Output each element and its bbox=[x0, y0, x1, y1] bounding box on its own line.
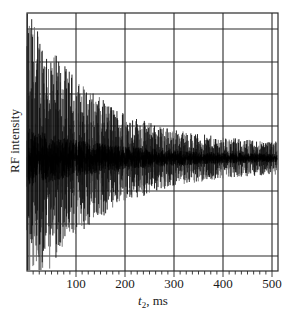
x-tick-labels: 100200300400500 bbox=[66, 276, 282, 291]
x-tick-label: 500 bbox=[262, 276, 282, 291]
x-tick-label: 100 bbox=[66, 276, 86, 291]
fid-chart: 100200300400500 RF intensity t2, ms bbox=[0, 0, 289, 315]
x-tick-label: 200 bbox=[115, 276, 135, 291]
x-tick-label: 300 bbox=[164, 276, 184, 291]
fid-trace bbox=[27, 14, 277, 270]
x-axis-title: t2, ms bbox=[138, 293, 168, 310]
x-tick-label: 400 bbox=[213, 276, 233, 291]
x-axis-title-unit: , ms bbox=[146, 293, 168, 308]
y-axis-title: RF intensity bbox=[7, 109, 22, 173]
